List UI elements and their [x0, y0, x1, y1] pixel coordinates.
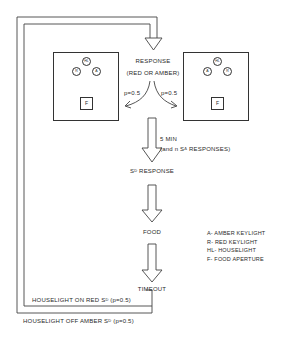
p-right-label: p=0.5 — [161, 90, 177, 97]
right-chamber: HL A R F — [183, 52, 249, 121]
condition-post: RESPONSES) — [187, 146, 230, 152]
houselight-icon: HL — [82, 57, 91, 66]
houselight-icon: HL — [213, 57, 222, 66]
condition-line-1: 5 MIN — [160, 136, 177, 143]
food-aperture-icon: F — [211, 97, 224, 110]
legend: A- AMBER KEYLIGHT R- RED KEYLIGHT HL- HO… — [207, 229, 265, 263]
response-sub-label: (RED OR AMBER) — [127, 70, 180, 77]
outer-loop-label: HOUSELIGHT OFF AMBER SD (p=0.5) — [23, 318, 134, 325]
condition-pre: (and — [160, 146, 175, 152]
amber-keylight-icon: A — [203, 67, 212, 76]
legend-item: A- AMBER KEYLIGHT — [207, 229, 265, 238]
block-arrow-1 — [142, 118, 162, 162]
left-chamber: HL R A F — [53, 52, 119, 121]
condition-sup: Δ — [184, 146, 187, 151]
outer-post: (p=0.5) — [111, 318, 133, 324]
outer-pre: HOUSELIGHT OFF AMBER S — [23, 318, 108, 324]
inner-post: (p=0.5) — [108, 297, 130, 303]
timeout-label: TIMEOUT — [138, 286, 166, 293]
inner-loop-label: HOUSELIGHT ON RED SD (p=0.5) — [32, 297, 131, 304]
sd-rest: RESPONSE — [137, 168, 174, 174]
amber-keylight-icon: A — [92, 67, 101, 76]
condition-line-2: (and n SΔ RESPONSES) — [160, 146, 230, 153]
response-label: RESPONSE — [136, 58, 171, 65]
legend-item: F- FOOD APERTURE — [207, 255, 265, 264]
block-arrow-2 — [142, 185, 162, 222]
block-arrow-3 — [142, 244, 162, 282]
food-aperture-icon: F — [80, 97, 93, 110]
inner-pre: HOUSELIGHT ON RED S — [32, 297, 105, 303]
red-keylight-icon: R — [223, 67, 232, 76]
top-arrow — [145, 38, 162, 50]
red-keylight-icon: R — [72, 67, 81, 76]
outer-sup: D — [108, 318, 111, 323]
sd-sup: D — [134, 168, 137, 173]
legend-item: HL- HOUSELIGHT — [207, 246, 265, 255]
sd-response-label: SD RESPONSE — [130, 168, 174, 175]
food-label: FOOD — [143, 229, 161, 236]
legend-item: R- RED KEYLIGHT — [207, 238, 265, 247]
p-left-label: p=0.5 — [124, 90, 140, 97]
